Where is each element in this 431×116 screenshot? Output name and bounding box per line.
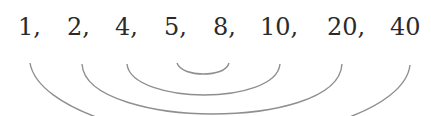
arc-4-10 (127, 64, 280, 95)
arc-2-20 (82, 64, 342, 114)
arc-5-8 (177, 63, 229, 74)
pairing-arcs (0, 0, 431, 116)
factor-pairs-diagram: 1, 2, 4, 5, 8, 10, 20, 40 (0, 0, 431, 116)
